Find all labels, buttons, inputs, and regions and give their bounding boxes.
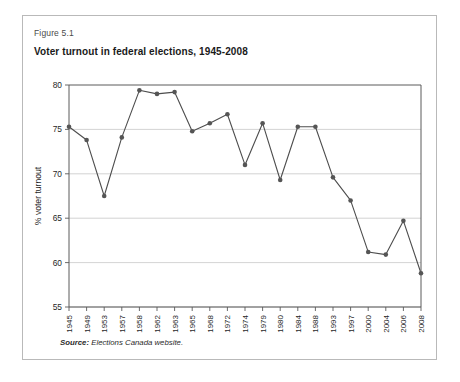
x-tick-label: 1958 — [135, 314, 144, 332]
x-tick-label: 2006 — [399, 314, 408, 332]
x-tick-label: 1968 — [206, 314, 215, 332]
x-tick-label: 2000 — [364, 314, 373, 332]
source-note: Source: Elections Canada website. — [60, 338, 183, 347]
x-tick-label: 1984 — [294, 314, 303, 332]
data-point — [84, 138, 89, 143]
x-tick-label: 2004 — [382, 314, 391, 332]
x-tick-label: 1945 — [65, 314, 74, 332]
x-tick-label: 1979 — [259, 314, 268, 332]
line-chart: 556065707580% voter turnout1945194919531… — [23, 16, 436, 359]
data-point — [331, 175, 336, 180]
y-tick-label: 55 — [53, 302, 63, 312]
data-point — [278, 178, 283, 183]
data-point — [419, 271, 424, 276]
data-point — [225, 112, 230, 117]
y-axis-title: % voter turnout — [33, 166, 43, 225]
x-tick-label: 1972 — [223, 314, 232, 332]
chart-plot-area: 556065707580% voter turnout1945194919531… — [23, 16, 436, 359]
x-tick-label: 1974 — [241, 314, 250, 332]
source-prefix: Source: — [60, 338, 89, 347]
y-tick-label: 80 — [53, 80, 63, 90]
x-tick-label: 1963 — [171, 314, 180, 332]
data-point — [190, 129, 195, 134]
data-point — [348, 198, 353, 203]
x-tick-label: 1993 — [329, 314, 338, 332]
x-tick-label: 1962 — [153, 314, 162, 332]
data-point — [243, 163, 248, 168]
x-tick-label: 1988 — [311, 314, 320, 332]
data-point — [296, 124, 301, 129]
x-tick-label: 1980 — [276, 314, 285, 332]
y-tick-label: 60 — [53, 258, 63, 268]
data-point — [208, 121, 213, 126]
data-point — [260, 121, 265, 126]
y-tick-label: 75 — [53, 124, 63, 134]
x-tick-label: 1957 — [118, 314, 127, 332]
data-point — [137, 88, 142, 93]
x-tick-label: 2008 — [417, 314, 426, 332]
x-tick-label: 1949 — [83, 314, 92, 332]
y-tick-label: 70 — [53, 169, 63, 179]
data-point — [155, 92, 160, 97]
figure-container: Figure 5.1 Voter turnout in federal elec… — [22, 15, 437, 360]
data-point — [366, 250, 371, 255]
data-point — [102, 194, 107, 199]
source-text: Elections Canada website. — [91, 338, 183, 347]
y-tick-label: 65 — [53, 213, 63, 223]
data-point — [67, 124, 72, 129]
x-tick-label: 1997 — [347, 314, 356, 332]
data-point — [172, 90, 177, 95]
data-point — [401, 219, 406, 224]
turnout-series-line — [69, 90, 421, 273]
data-point — [313, 124, 318, 129]
data-point — [384, 252, 389, 257]
x-tick-label: 1965 — [188, 314, 197, 332]
x-tick-label: 1953 — [100, 314, 109, 332]
data-point — [120, 135, 125, 140]
